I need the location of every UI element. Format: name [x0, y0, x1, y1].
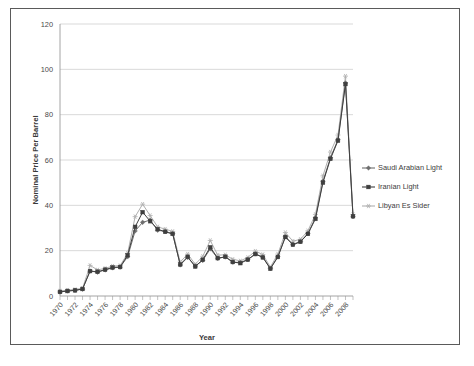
- x-tick-label: 2006: [318, 300, 335, 318]
- data-series-group: [58, 74, 356, 294]
- data-point-marker: [118, 265, 122, 269]
- data-point-marker: [66, 289, 70, 293]
- data-point-marker: [148, 213, 153, 217]
- data-point-marker: [148, 219, 152, 223]
- legend-item-libyan-es-sider[interactable]: Libyan Es Sider: [362, 201, 430, 210]
- data-point-marker: [140, 202, 145, 206]
- legend-item-label: Saudi Arabian Light: [378, 163, 442, 172]
- x-tick-label: 2002: [288, 300, 305, 318]
- data-point-marker: [81, 287, 85, 291]
- series-line: [60, 84, 353, 292]
- data-point-marker: [261, 256, 265, 260]
- data-point-marker: [186, 255, 190, 259]
- x-axis-tick-labels: 1970197219741976197819801982198419861988…: [48, 300, 351, 318]
- x-tick-label: 1994: [228, 300, 245, 318]
- series-line: [60, 83, 353, 292]
- oil-price-line-chart: 020406080100120 197019721974197619781980…: [0, 0, 474, 366]
- legend-item-label: Libyan Es Sider: [378, 201, 430, 210]
- x-tick-label: 1984: [153, 300, 170, 318]
- data-point-marker: [321, 181, 325, 185]
- data-point-marker: [156, 227, 160, 231]
- x-tick-label: 1972: [63, 300, 80, 318]
- y-tick-label: 20: [45, 246, 53, 255]
- x-tick-label: 1992: [213, 300, 230, 318]
- y-tick-label: 100: [41, 65, 53, 74]
- gridlines: [60, 24, 353, 251]
- data-point-marker: [96, 270, 100, 274]
- data-point-marker: [336, 139, 340, 143]
- data-point-marker: [366, 204, 371, 208]
- legend-item-saudi-arabian-light[interactable]: Saudi Arabian Light: [362, 163, 442, 172]
- legend-item-label: Iranian Light: [378, 182, 419, 191]
- data-point-marker: [231, 260, 235, 264]
- x-tick-label: 1982: [138, 300, 155, 318]
- x-tick-label: 1996: [243, 300, 260, 318]
- data-point-marker: [268, 267, 272, 271]
- data-point-marker: [351, 214, 355, 218]
- data-point-marker: [329, 157, 333, 161]
- data-point-marker: [133, 225, 137, 229]
- x-tick-label: 1980: [123, 300, 140, 318]
- y-tick-label: 80: [45, 110, 53, 119]
- data-point-marker: [299, 240, 303, 244]
- data-point-marker: [163, 230, 167, 234]
- data-point-marker: [111, 266, 115, 270]
- data-point-marker: [141, 210, 145, 214]
- data-point-marker: [178, 263, 182, 267]
- data-point-marker: [103, 268, 107, 272]
- x-tick-label: 1976: [93, 300, 110, 318]
- data-point-marker: [88, 269, 92, 273]
- data-point-marker: [246, 258, 250, 262]
- data-point-marker: [291, 243, 295, 247]
- data-point-marker: [283, 235, 287, 239]
- x-tick-label: 1998: [258, 300, 275, 318]
- data-point-marker: [208, 245, 212, 249]
- y-tick-label: 120: [41, 20, 53, 29]
- data-point-marker: [126, 253, 130, 257]
- data-point-marker: [306, 232, 310, 236]
- data-point-marker: [171, 232, 175, 236]
- data-point-marker: [193, 265, 197, 269]
- series-saudi-arabian-light: [58, 81, 356, 295]
- series-libyan-es-sider: [58, 74, 356, 293]
- x-tick-label: 1986: [168, 300, 185, 318]
- data-point-marker: [344, 82, 348, 86]
- y-tick-label: 0: [49, 292, 53, 301]
- data-point-marker: [366, 166, 371, 171]
- legend-item-iranian-light[interactable]: Iranian Light: [362, 182, 419, 191]
- chart-legend: Saudi Arabian LightIranian LightLibyan E…: [362, 163, 442, 210]
- x-tick-label: 1970: [48, 300, 65, 318]
- data-point-marker: [253, 252, 257, 256]
- x-axis-title: Year: [199, 333, 215, 342]
- data-point-marker: [223, 255, 227, 259]
- y-axis-title: Nominal Price Per Barrel: [31, 115, 40, 204]
- x-tick-label: 2004: [303, 300, 320, 318]
- x-tick-label: 1974: [78, 300, 95, 318]
- data-point-marker: [216, 256, 220, 260]
- data-point-marker: [314, 217, 318, 221]
- data-point-marker: [367, 185, 371, 189]
- data-point-marker: [73, 288, 77, 292]
- x-tick-label: 2000: [273, 300, 290, 318]
- x-tick-label: 1978: [108, 300, 125, 318]
- x-tick-label: 1988: [183, 300, 200, 318]
- series-iranian-light: [58, 82, 355, 294]
- chart-svg: 020406080100120 197019721974197619781980…: [0, 0, 474, 366]
- series-line: [60, 76, 353, 291]
- data-point-marker: [238, 261, 242, 265]
- axis-ticks: [60, 296, 353, 300]
- y-axis-tick-labels: 020406080100120: [41, 20, 53, 301]
- data-point-marker: [58, 290, 62, 294]
- data-point-marker: [201, 258, 205, 262]
- data-point-marker: [208, 238, 213, 242]
- y-tick-label: 60: [45, 156, 53, 165]
- data-point-marker: [276, 255, 280, 259]
- x-tick-label: 2008: [333, 300, 350, 318]
- x-tick-label: 1990: [198, 300, 215, 318]
- y-tick-label: 40: [45, 201, 53, 210]
